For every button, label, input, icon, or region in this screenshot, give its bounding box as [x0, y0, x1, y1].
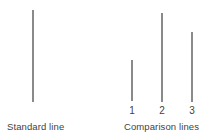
standard-line-caption: Standard line: [7, 121, 64, 133]
comparison-line-label-1: 1: [125, 105, 139, 116]
line-judgment-figure: Standard line 1 2 3 Comparison lines: [0, 0, 210, 136]
comparison-line-label-2: 2: [155, 105, 169, 116]
comparison-line-label-3: 3: [185, 105, 199, 116]
comparison-lines-caption: Comparison lines: [124, 121, 199, 133]
comparison-line-1: [131, 60, 133, 101]
comparison-line-3: [191, 32, 193, 102]
comparison-line-2: [161, 13, 163, 102]
comparison-lines-panel: 1 2 3 Comparison lines: [105, 0, 210, 136]
standard-line: [32, 10, 34, 102]
standard-line-panel: Standard line: [0, 0, 105, 136]
